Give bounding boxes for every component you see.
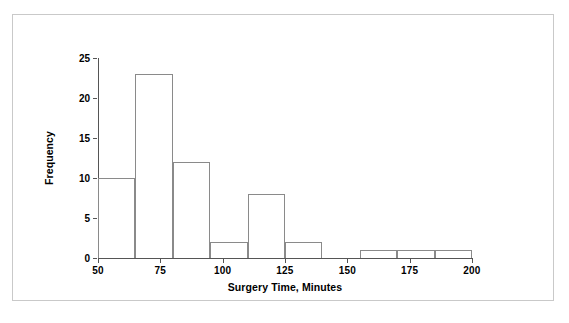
x-tick-label: 175 — [401, 265, 418, 276]
x-tick-label: 200 — [463, 265, 480, 276]
histogram-figure: 5075100125150175200 0510152025 Surgery T… — [0, 0, 569, 323]
y-tick-label: 25 — [74, 53, 90, 64]
histogram-bar — [285, 242, 322, 258]
histogram-bar — [435, 250, 472, 258]
x-tick-mark — [160, 259, 161, 263]
y-tick-label: 10 — [74, 173, 90, 184]
y-tick-label: 5 — [74, 213, 90, 224]
histogram-bar — [248, 194, 285, 258]
y-tick-mark — [93, 138, 97, 139]
histogram-bar — [360, 250, 397, 258]
y-tick-mark — [93, 178, 97, 179]
x-tick-label: 125 — [276, 265, 293, 276]
x-tick-mark — [98, 259, 99, 263]
x-axis-title: Surgery Time, Minutes — [98, 281, 472, 293]
x-tick-mark — [472, 259, 473, 263]
histogram-bar — [210, 242, 247, 258]
x-tick-mark — [410, 259, 411, 263]
y-axis-title: Frequency — [43, 131, 55, 185]
histogram-bar — [397, 250, 434, 258]
histogram-bar — [135, 74, 172, 258]
x-tick-label: 75 — [155, 265, 167, 276]
y-tick-mark — [93, 218, 97, 219]
y-tick-mark — [93, 98, 97, 99]
y-tick-label: 20 — [74, 93, 90, 104]
histogram-bar — [173, 162, 210, 258]
x-tick-label: 100 — [214, 265, 231, 276]
x-tick-mark — [347, 259, 348, 263]
x-tick-label: 50 — [92, 265, 104, 276]
y-tick-mark — [93, 258, 97, 259]
x-tick-mark — [285, 259, 286, 263]
histogram-bar — [98, 178, 135, 258]
y-tick-label: 0 — [74, 253, 90, 264]
y-tick-mark — [93, 58, 97, 59]
y-tick-label: 15 — [74, 133, 90, 144]
x-tick-mark — [223, 259, 224, 263]
x-tick-label: 150 — [339, 265, 356, 276]
